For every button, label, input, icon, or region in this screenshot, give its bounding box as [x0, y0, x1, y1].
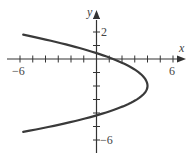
x-max-tick-label: 6	[169, 64, 175, 78]
x-axis-label: x	[178, 41, 185, 55]
parabola-curve	[23, 35, 147, 132]
parabola-chart: x y −6 6 2 −6	[0, 0, 191, 160]
y-axis	[93, 10, 100, 153]
y-axis-label: y	[86, 5, 93, 19]
y-top-tick-label: 2	[101, 25, 107, 39]
x-min-tick-label: −6	[12, 64, 25, 78]
y-axis-arrow-icon	[93, 10, 100, 19]
y-bottom-tick-label: −6	[100, 133, 113, 147]
x-axis-arrow-icon	[177, 56, 186, 63]
